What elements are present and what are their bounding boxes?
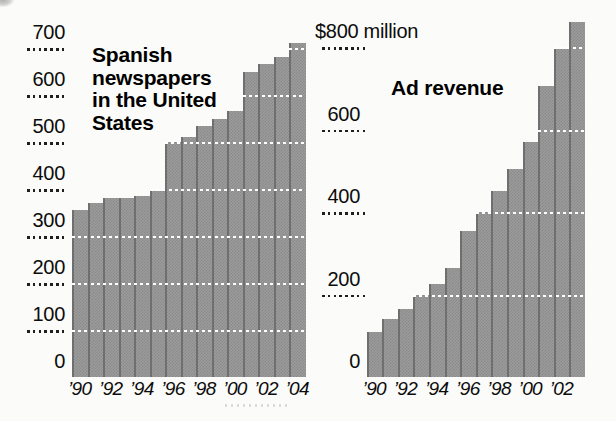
bar-1992: [103, 198, 119, 377]
y-axis-label: 600: [300, 104, 360, 124]
bar-2004: [289, 43, 305, 377]
bar-1993: [413, 295, 429, 378]
y-axis-label: 500: [5, 116, 65, 136]
bar-1996: [460, 231, 476, 377]
bar-1993: [119, 198, 135, 377]
gridline-dots-black: [322, 212, 366, 215]
y-axis-label: 200: [300, 269, 360, 289]
bar-2003: [569, 22, 585, 377]
gridline-dots-white: [289, 48, 305, 50]
bar-1998: [196, 126, 212, 377]
gridline-dots-white: [72, 330, 305, 332]
chart-title: Ad revenue: [391, 77, 503, 100]
y-axis-label: 0: [5, 351, 65, 371]
y-axis-label: 400: [5, 163, 65, 183]
gridline-dots-white: [72, 236, 305, 238]
bar-1994: [429, 284, 445, 377]
y-axis-label: 600: [5, 69, 65, 89]
x-axis-label: ’04: [273, 379, 321, 398]
gridline-dots-white: [72, 283, 305, 285]
bar-1995: [445, 268, 461, 377]
gridline-dots-white: [165, 142, 305, 144]
x-axis-label: ’02: [538, 379, 586, 398]
bar-1997: [181, 137, 197, 377]
bar-1991: [382, 319, 398, 377]
y-axis-label: $800 million: [315, 21, 445, 41]
bar-1998: [491, 191, 507, 377]
gridline-dots-white: [150, 189, 305, 191]
gridline-dots-white: [243, 95, 305, 97]
gridline-dots-black: [322, 47, 366, 50]
gridline-dots-white: [538, 130, 585, 132]
chart-title-line: in the United: [92, 89, 217, 112]
y-axis-label: 400: [300, 186, 360, 206]
two-bar-charts-figure: Spanishnewspapersin the UnitedStates0100…: [0, 0, 616, 421]
gridline-dots-white: [554, 47, 585, 49]
y-axis-label: 300: [5, 210, 65, 230]
bar-1999: [212, 119, 228, 378]
bar-1994: [134, 196, 150, 377]
y-axis-label: 100: [5, 304, 65, 324]
bar-1999: [507, 169, 523, 377]
chart-title-line: States: [92, 112, 217, 135]
bar-1996: [165, 142, 181, 377]
bar-1992: [398, 309, 414, 377]
chart-title-line: newspapers: [92, 67, 217, 90]
y-axis-label: 700: [5, 22, 65, 42]
gridline-dots-white: [476, 212, 585, 214]
bar-2000: [523, 142, 539, 377]
chart-title-line: Ad revenue: [391, 77, 503, 100]
bar-2000: [227, 111, 243, 377]
chart-title: Spanishnewspapersin the UnitedStates: [92, 44, 217, 134]
gridline-dots-white: [413, 295, 585, 297]
bar-1990: [367, 332, 383, 377]
chart-title-line: Spanish: [92, 44, 217, 67]
bar-1991: [88, 203, 104, 377]
y-axis-label: 200: [5, 257, 65, 277]
gridline-dots-black: [322, 130, 366, 133]
gridline-dots-black: [322, 295, 366, 298]
y-axis-label: 0: [300, 351, 360, 371]
